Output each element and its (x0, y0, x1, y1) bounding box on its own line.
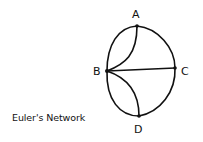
node-label-a: A (132, 8, 140, 21)
edge-a-b-outer (107, 26, 137, 71)
edge-c-d (139, 68, 175, 116)
node-label-c: C (181, 65, 189, 78)
node-a (135, 24, 139, 28)
edge-b-d-inner (107, 71, 139, 116)
node-d (137, 114, 141, 118)
node-label-b: B (93, 65, 101, 78)
edge-a-c (137, 26, 175, 68)
diagram-caption: Euler's Network (12, 112, 85, 123)
node-c (173, 66, 177, 70)
node-label-d: D (134, 123, 142, 136)
node-b (105, 69, 109, 73)
edge-b-c (107, 68, 175, 71)
edge-a-b-inner (107, 26, 137, 71)
